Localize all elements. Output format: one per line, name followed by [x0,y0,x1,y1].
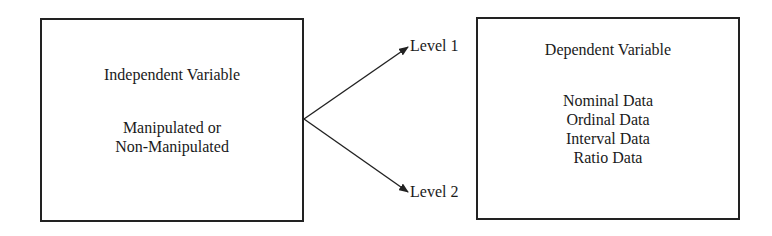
independent-variable-title: Independent Variable [42,66,302,84]
data-type-item: Ordinal Data [478,110,738,129]
iv-line: Manipulated or [42,118,302,137]
level-1-label: Level 1 [410,37,458,55]
dependent-variable-box: Dependent Variable Nominal Data Ordinal … [476,17,740,220]
data-types-list: Nominal Data Ordinal Data Interval Data … [478,91,738,167]
dependent-variable-title: Dependent Variable [478,41,738,59]
iv-line: Non-Manipulated [42,137,302,156]
independent-variable-description: Manipulated or Non-Manipulated [42,118,302,156]
level-2-label: Level 2 [410,183,458,201]
data-type-item: Interval Data [478,129,738,148]
data-type-item: Nominal Data [478,91,738,110]
arrow-to-level-1 [304,47,408,119]
independent-variable-box: Independent Variable Manipulated or Non-… [40,18,304,222]
data-type-item: Ratio Data [478,148,738,167]
arrow-to-level-2 [304,119,408,192]
